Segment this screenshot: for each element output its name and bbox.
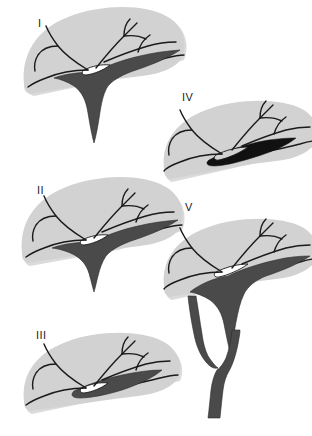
figure-2: II: [22, 177, 185, 292]
figure-1: I: [24, 7, 187, 143]
figure-label-2: II: [37, 184, 44, 196]
figure-5: V: [164, 201, 312, 418]
figure-4: IV: [164, 91, 312, 182]
figure-3: III: [24, 329, 183, 414]
figure-label-1: I: [38, 17, 41, 29]
duct-common-descending: [208, 330, 240, 418]
figure-label-4: IV: [182, 91, 193, 103]
figure-label-3: III: [36, 329, 46, 341]
anatomical-figure-plate: I II: [0, 0, 312, 436]
figure-label-5: V: [185, 201, 193, 213]
diagram-canvas: I II: [0, 0, 312, 436]
duct-loop-left-limb: [188, 296, 218, 368]
